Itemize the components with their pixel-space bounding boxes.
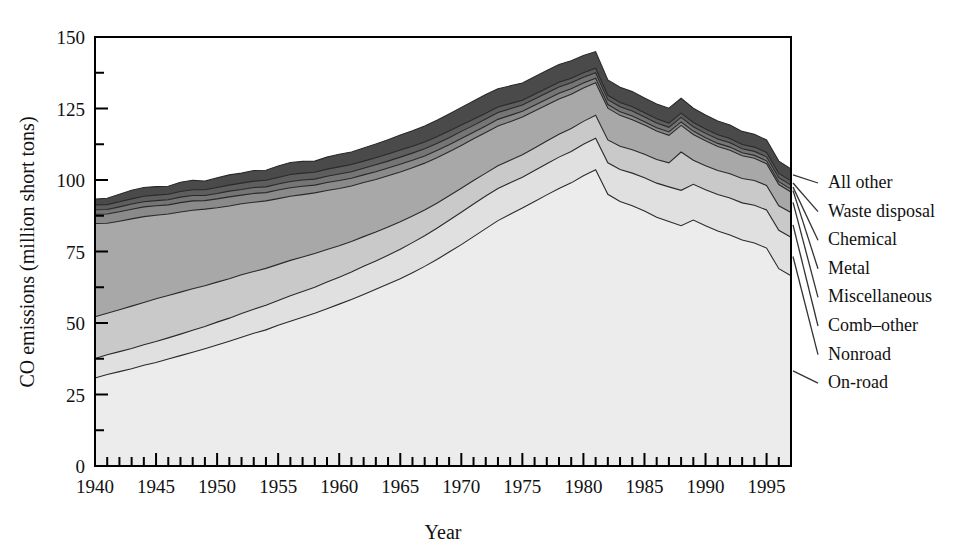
stacked-area-chart: 0255075100125150 19401945195019551960196… — [0, 0, 973, 559]
y-tick-label: 50 — [66, 313, 85, 334]
x-axis-title: Year — [425, 521, 462, 543]
x-tick-label: 1955 — [259, 476, 297, 497]
legend-label-waste-disposal: Waste disposal — [828, 201, 935, 221]
chart-figure: 0255075100125150 19401945195019551960196… — [0, 0, 973, 559]
x-tick-label: 1990 — [687, 476, 725, 497]
legend-label-all-other: All other — [828, 172, 893, 192]
legend-label-on-road: On-road — [828, 372, 888, 392]
y-axis-title: CO emissions (million short tons) — [16, 116, 39, 387]
x-tick-label: 1985 — [625, 476, 663, 497]
x-tick-label: 1950 — [198, 476, 236, 497]
y-tick-label: 150 — [57, 27, 86, 48]
x-tick-label: 1960 — [320, 476, 358, 497]
y-tick-label: 75 — [66, 242, 85, 263]
y-tick-label: 0 — [76, 456, 86, 477]
legend-label-chemical: Chemical — [828, 229, 897, 249]
x-tick-label: 1945 — [137, 476, 175, 497]
x-tick-label: 1965 — [381, 476, 419, 497]
x-tick-label: 1970 — [442, 476, 480, 497]
legend-label-miscellaneous: Miscellaneous — [828, 286, 932, 306]
y-tick-label: 100 — [57, 170, 86, 191]
legend-label-nonroad: Nonroad — [828, 344, 891, 364]
y-tick-label: 25 — [66, 385, 85, 406]
x-tick-label: 1980 — [564, 476, 602, 497]
legend-label-comb-other: Comb–other — [828, 315, 918, 335]
x-tick-label: 1995 — [748, 476, 786, 497]
x-tick-label: 1975 — [503, 476, 541, 497]
legend-label-metal: Metal — [828, 258, 870, 278]
x-tick-label: 1940 — [76, 476, 114, 497]
y-tick-label: 125 — [57, 99, 86, 120]
